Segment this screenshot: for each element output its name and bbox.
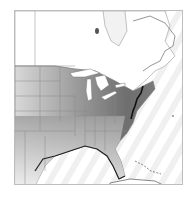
island-dot (95, 28, 99, 34)
bermuda-dot (172, 115, 174, 117)
map-frame[interactable] (14, 10, 183, 185)
map-canvas (15, 11, 183, 185)
